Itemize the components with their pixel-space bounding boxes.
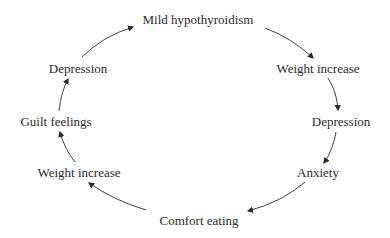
node-comfort-eating: Comfort eating xyxy=(159,214,238,227)
arrow-mild-hypothyroidism-to-weight-increase xyxy=(265,28,313,58)
node-depression-right: Depression xyxy=(312,115,371,128)
arrow-weight-increase-to-depression-right xyxy=(328,78,338,110)
arrow-weight-increase-left-to-guilt-feelings xyxy=(60,132,75,162)
arrow-depression-left-to-mild-hypothyroidism xyxy=(82,27,133,57)
arrow-depression-right-to-anxiety xyxy=(324,132,336,163)
cycle-diagram: Mild hypothyroidism Weight increase Depr… xyxy=(0,0,390,238)
node-weight-increase-right: Weight increase xyxy=(276,62,359,75)
arrow-guilt-feelings-to-depression-left xyxy=(59,79,68,111)
arrow-comfort-eating-to-weight-increase-left xyxy=(89,183,146,210)
node-mild-hypothyroidism: Mild hypothyroidism xyxy=(143,13,254,26)
node-anxiety: Anxiety xyxy=(297,166,339,179)
node-depression-left: Depression xyxy=(49,62,108,75)
node-guilt-feelings: Guilt feelings xyxy=(20,115,91,128)
node-weight-increase-left: Weight increase xyxy=(37,166,120,179)
arrow-anxiety-to-comfort-eating xyxy=(248,182,305,211)
